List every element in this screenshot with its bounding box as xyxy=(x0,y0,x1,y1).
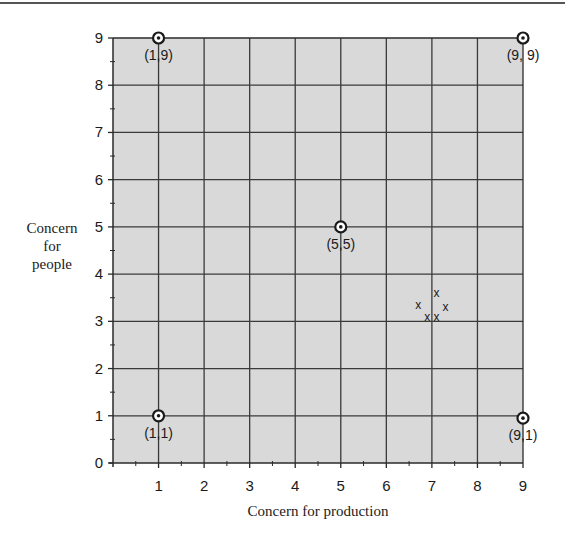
marker-center-dot-icon xyxy=(157,36,161,40)
x-marker-icon: x xyxy=(424,310,430,324)
point-label: (5,5) xyxy=(326,236,355,252)
marker-center-dot-icon xyxy=(157,414,161,418)
point-label: (1,9) xyxy=(144,47,173,63)
y-tick-label: 0 xyxy=(95,454,103,471)
x-tick-label: 5 xyxy=(337,477,345,494)
x-tick-label: 1 xyxy=(154,477,162,494)
circled-dot-marker xyxy=(153,410,164,421)
x-tick-label: 8 xyxy=(473,477,481,494)
x-tick-label: 4 xyxy=(291,477,299,494)
y-axis-title-line: for xyxy=(43,238,61,254)
point-label: (1,1) xyxy=(144,425,173,441)
y-tick-label: 8 xyxy=(95,76,103,93)
y-axis-title: Concernforpeople xyxy=(27,220,78,272)
circled-dot-marker xyxy=(518,33,529,44)
x-tick-label: 3 xyxy=(245,477,253,494)
x-marker-icon: x xyxy=(433,310,439,324)
y-axis-title-line: people xyxy=(32,256,72,272)
marker-center-dot-icon xyxy=(521,36,525,40)
x-tick-label: 6 xyxy=(382,477,390,494)
x-marker-icon: x xyxy=(415,298,421,312)
y-axis-title-line: Concern xyxy=(27,220,78,236)
plot-background xyxy=(113,38,523,463)
plot-area xyxy=(109,38,523,467)
x-marker-icon: x xyxy=(433,286,439,300)
circled-dot-marker xyxy=(335,221,346,232)
point-label: (9,1) xyxy=(509,427,538,443)
y-tick-label: 9 xyxy=(95,29,103,46)
marker-center-dot-icon xyxy=(521,416,525,420)
y-tick-label: 6 xyxy=(95,171,103,188)
y-tick-label: 3 xyxy=(95,312,103,329)
point-label: (9, 9) xyxy=(507,47,540,63)
x-tick-label: 9 xyxy=(519,477,527,494)
y-tick-label: 2 xyxy=(95,360,103,377)
x-tick-label: 7 xyxy=(428,477,436,494)
managerial-grid-chart: 123456789 0123456789 (1,9)(9, 9)(5,5)(1,… xyxy=(0,0,565,550)
marker-center-dot-icon xyxy=(339,225,343,229)
x-tick-label: 2 xyxy=(200,477,208,494)
circled-dot-marker xyxy=(153,33,164,44)
y-tick-label: 4 xyxy=(95,265,103,282)
y-tick-label: 7 xyxy=(95,123,103,140)
x-marker-icon: x xyxy=(443,300,449,314)
y-tick-label: 1 xyxy=(95,407,103,424)
y-tick-label: 5 xyxy=(95,218,103,235)
x-axis-title: Concern for production xyxy=(248,503,389,519)
x-axis-ticks: 123456789 xyxy=(136,461,527,494)
circled-dot-marker xyxy=(518,413,529,424)
y-axis-ticks: 0123456789 xyxy=(95,29,115,471)
